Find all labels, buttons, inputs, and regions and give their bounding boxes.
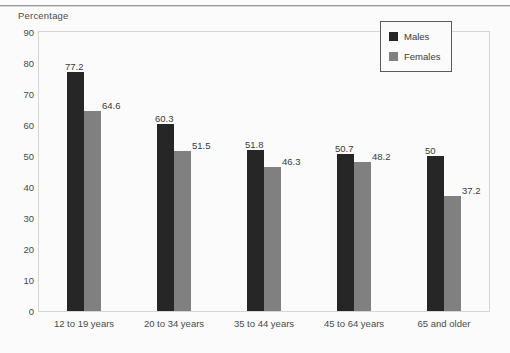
y-axis-tick: 90 — [23, 27, 34, 38]
chart-legend: MalesFemales — [380, 21, 452, 72]
x-axis-tick: 20 to 34 years — [144, 318, 204, 329]
legend-swatch-females — [389, 52, 398, 61]
y-axis-tick: 10 — [23, 275, 34, 286]
bar-value-label: 50 — [425, 145, 436, 156]
bar-value-label: 37.2 — [462, 185, 481, 196]
y-axis-tick: 70 — [23, 89, 34, 100]
x-axis-tick: 45 to 64 years — [324, 318, 384, 329]
bar-males — [67, 72, 84, 311]
chart-figure: Percentage 9080706050403020100 77.264.66… — [0, 0, 510, 353]
bar-value-label: 60.3 — [155, 113, 174, 124]
bar-value-label: 77.2 — [65, 61, 84, 72]
bar-females — [444, 196, 461, 311]
y-axis-tick: 50 — [23, 151, 34, 162]
x-axis-tick: 65 and older — [418, 318, 471, 329]
legend-item: Males — [389, 29, 443, 44]
bar-females — [84, 111, 101, 311]
bar-males — [337, 154, 354, 311]
bar-males — [247, 150, 264, 311]
y-axis-label: Percentage — [18, 10, 69, 21]
bar-value-label: 50.7 — [335, 143, 354, 154]
bar-value-label: 51.5 — [192, 140, 211, 151]
bar-males — [157, 124, 174, 311]
x-axis-tick: 35 to 44 years — [234, 318, 294, 329]
page-top-rule-shadow — [0, 6, 510, 7]
y-axis-tick: 30 — [23, 213, 34, 224]
legend-label: Females — [404, 51, 440, 62]
bar-value-label: 46.3 — [282, 156, 301, 167]
x-axis-tick: 12 to 19 years — [54, 318, 114, 329]
bar-value-label: 48.2 — [372, 151, 391, 162]
bar-value-label: 51.8 — [245, 139, 264, 150]
y-axis-tick: 80 — [23, 58, 34, 69]
y-axis-tick: 0 — [29, 306, 34, 317]
legend-item: Females — [389, 49, 443, 64]
legend-swatch-males — [389, 32, 398, 41]
y-axis-tick: 20 — [23, 244, 34, 255]
bar-females — [174, 151, 191, 311]
y-axis-tick: 40 — [23, 182, 34, 193]
bar-females — [354, 162, 371, 311]
bar-males — [427, 156, 444, 311]
bar-females — [264, 167, 281, 311]
plot-area: 9080706050403020100 77.264.660.351.551.8… — [38, 31, 490, 312]
bar-value-label: 64.6 — [102, 100, 121, 111]
y-axis-tick: 60 — [23, 120, 34, 131]
legend-label: Males — [404, 31, 429, 42]
